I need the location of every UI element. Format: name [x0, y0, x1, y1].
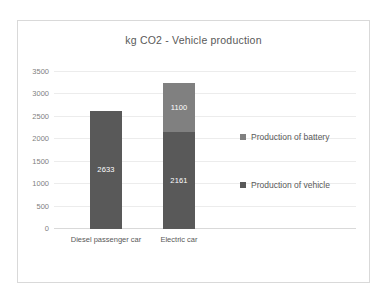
bar-segment[interactable]: 1100: [163, 83, 195, 132]
y-axis-tick-label: 500: [36, 201, 49, 210]
chart-container: kg CO2 - Vehicle production 050010001500…: [17, 20, 370, 283]
legend-item-label: Production of battery: [251, 132, 329, 142]
bar-value-label: 2161: [170, 177, 187, 185]
x-axis-category-label: Electric car: [160, 235, 197, 244]
y-axis-tick-label: 2000: [32, 134, 49, 143]
bar-column[interactable]: 2633Diesel passenger car: [90, 111, 122, 229]
bar-column[interactable]: 11002161Electric car: [163, 83, 195, 229]
square-marker-icon: [240, 134, 246, 140]
legend-item-label: Production of vehicle: [251, 180, 330, 190]
y-axis-tick-label: 2500: [32, 111, 49, 120]
gridline: 3500: [54, 71, 356, 72]
bar-value-label: 2633: [97, 166, 114, 174]
legend-item-battery[interactable]: Production of battery: [240, 131, 365, 143]
chart-title: kg CO2 - Vehicle production: [18, 34, 369, 46]
gridline: 3000: [54, 93, 356, 94]
square-marker-icon: [240, 182, 246, 188]
x-axis-category-label: Diesel passenger car: [71, 235, 141, 244]
legend-item-vehicle[interactable]: Production of vehicle: [240, 179, 365, 191]
bar-value-label: 1100: [171, 104, 188, 112]
y-axis-tick-label: 1000: [32, 179, 49, 188]
y-axis-tick-label: 1500: [32, 156, 49, 165]
y-axis-tick-label: 0: [45, 224, 49, 233]
chart-legend: Production of battery Production of vehi…: [240, 131, 365, 227]
bar-segment[interactable]: 2633: [90, 111, 122, 229]
y-axis-tick-label: 3000: [32, 89, 49, 98]
bar-segment[interactable]: 2161: [163, 132, 195, 229]
y-axis-tick-label: 3500: [32, 67, 49, 76]
